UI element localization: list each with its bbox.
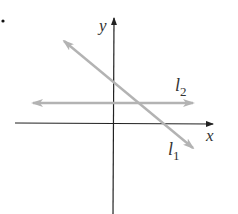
line-l1 xyxy=(64,41,193,148)
y-axis xyxy=(113,18,114,214)
l2-label-sub: 2 xyxy=(180,84,187,99)
l1-label-sub: 1 xyxy=(173,148,180,163)
bullet-dot xyxy=(1,19,4,22)
y-axis-label: y xyxy=(97,16,107,35)
l1-label: l1 xyxy=(168,139,180,163)
x-axis-label: x xyxy=(205,126,214,145)
l2-label: l2 xyxy=(175,75,187,99)
coordinate-diagram: y x l2 l1 xyxy=(0,0,238,214)
